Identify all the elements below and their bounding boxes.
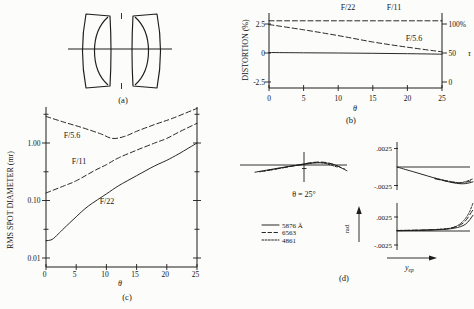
left-lens-internal-surface — [95, 17, 109, 85]
legend-label-4861: 4861 — [282, 237, 297, 245]
b-y-tick-label: -2.5 — [253, 78, 265, 87]
c-x-tick-label: 20 — [162, 270, 170, 279]
c-x-tick-label: 25 — [192, 270, 200, 279]
d-fan3-scale-pos-label: .0025 — [376, 214, 392, 222]
panel-b-distortion-plot: DISTORTION (%) θ τ F/22 F/11 F/5.6 (b) 2… — [237, 0, 474, 130]
pupil-axis-label: yep — [404, 263, 414, 273]
b-x-tick-label: 10 — [334, 94, 342, 103]
b-x-tick-label: 5 — [302, 94, 306, 103]
d-field-angle-label: θ = 25° — [292, 190, 316, 199]
b-curve-label-f11: F/11 — [387, 3, 401, 12]
c-x-tick-label: 0 — [43, 270, 47, 279]
b-x-tick-label: 25 — [438, 94, 446, 103]
right-lens-internal-surface — [135, 17, 149, 85]
fan2-5876-curve — [397, 167, 473, 184]
c-curve-label-f11: F/11 — [72, 157, 86, 166]
left-lens-element-outline — [83, 14, 112, 88]
b-x-tick-label: 15 — [369, 94, 377, 103]
panel-c-caption: (c) — [122, 292, 132, 302]
b-curve-label-f22: F/22 — [341, 3, 356, 12]
d-fan2-scale-pos-label: .0025 — [376, 145, 392, 153]
panel-d-ray-fans: θ = 25° .0025 -.0025 .0025 -.0025 rad ye… — [237, 130, 474, 309]
d-fan3-scale-neg-label: -.0025 — [374, 242, 393, 250]
rad-axis-label: rad — [343, 224, 351, 233]
c-y-tick-label: 1.00 — [27, 139, 40, 148]
fan1-4861-curve — [264, 162, 338, 171]
c-curve-label-f22: F/22 — [100, 197, 115, 206]
b-xlabel: θ — [353, 104, 357, 113]
c-y-tick-label: 0.10 — [27, 196, 40, 205]
right-lens-element-outline — [132, 14, 161, 88]
c-x-tick-label: 5 — [73, 270, 77, 279]
b-right-tick-label: 100% — [449, 20, 467, 29]
c-curve-label-f56: F/5.6 — [64, 131, 81, 140]
c-ylabel: RMS SPOT DIAMETER (mr) — [6, 151, 15, 249]
rad-axis-arrowhead-icon — [356, 206, 361, 214]
optics-figure: (a) DISTORTION (%) θ τ F/22 F/11 F/5.6 (… — [0, 0, 474, 309]
b-right-axis-label: τ — [468, 49, 472, 58]
c-y-tick-label: 0.01 — [27, 254, 40, 263]
fan3-6563-curve — [397, 210, 473, 231]
panel-c-rms-spot-plot: RMS SPOT DIAMETER (mr) θ F/5.6 F/11 F/22… — [0, 100, 237, 309]
b-right-tick-label: 50 — [449, 49, 457, 58]
c-x-tick-label: 15 — [131, 270, 139, 279]
distortion-curve — [269, 53, 442, 55]
b-y-tick-label: 2.5 — [256, 20, 266, 29]
panel-d-caption: (d) — [339, 273, 349, 283]
b-x-tick-label: 0 — [267, 94, 271, 103]
b-curve-label-f56: F/5.6 — [406, 34, 423, 43]
panel-a-lens-diagram: (a) — [60, 0, 180, 110]
c-xlabel: θ — [118, 279, 122, 288]
panel-b-caption: (b) — [346, 115, 356, 125]
d-fan2-scale-neg-label: -.0025 — [374, 183, 393, 191]
c-x-tick-label: 10 — [101, 270, 109, 279]
b-ylabel: DISTORTION (%) — [241, 19, 250, 81]
fan1-6563-curve — [260, 162, 345, 172]
b-y-tick-label: 0 — [261, 49, 265, 58]
rms-f22-curve — [46, 143, 197, 241]
b-x-tick-label: 20 — [404, 94, 412, 103]
b-right-tick-label: 0 — [449, 78, 453, 87]
pupil-axis-arrowhead-icon — [429, 255, 437, 260]
